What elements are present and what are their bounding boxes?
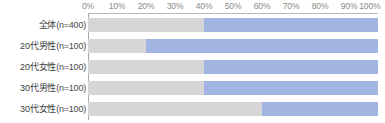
bar-segment-blue-3 — [204, 81, 378, 95]
category-name-4: 30代女性 — [20, 104, 56, 114]
category-label-row-4: 30代女性(n=100) — [2, 102, 86, 116]
x-axis-tick-50: 50% — [225, 1, 242, 11]
y-axis-category-labels: 全体(n=400) 20代男性(n=100) 20代女性(n=100) 30代男… — [0, 14, 86, 119]
x-axis-tick-80: 80% — [312, 1, 329, 11]
x-axis-tick-60: 60% — [254, 1, 271, 11]
x-axis-tick-0: 0% — [82, 1, 94, 11]
bar-segment-gray-4 — [88, 102, 262, 116]
category-label-row-1: 20代男性(n=100) — [2, 39, 86, 53]
bar-segment-blue-2 — [204, 60, 378, 74]
x-axis-tick-90: 90% — [341, 1, 358, 11]
bar-row-1 — [88, 39, 378, 53]
x-axis-tick-100: 100% — [359, 1, 380, 11]
category-name-3: 30代男性 — [20, 83, 56, 93]
bar-row-0 — [88, 18, 378, 32]
plot-area — [88, 14, 378, 119]
category-name-1: 20代男性 — [20, 41, 56, 51]
bar-segment-blue-1 — [146, 39, 378, 53]
category-count-2: (n=100) — [56, 62, 86, 72]
category-count-4: (n=100) — [56, 104, 86, 114]
category-count-1: (n=100) — [56, 41, 86, 51]
bar-segment-gray-3 — [88, 81, 204, 95]
bar-segment-blue-0 — [204, 18, 378, 32]
x-axis-tick-10: 10% — [109, 1, 126, 11]
category-name-0: 全体 — [39, 20, 57, 30]
bar-row-4 — [88, 102, 378, 116]
category-label-row-3: 30代男性(n=100) — [2, 81, 86, 95]
bar-row-3 — [88, 81, 378, 95]
stacked-bar-chart: 0% 10% 20% 30% 40% 50% 60% 70% 80% 90% 1… — [0, 0, 385, 123]
x-axis-tick-40: 40% — [196, 1, 213, 11]
category-label-row-0: 全体(n=400) — [2, 18, 86, 32]
bar-segment-gray-0 — [88, 18, 204, 32]
x-axis-tick-70: 70% — [283, 1, 300, 11]
bar-row-2 — [88, 60, 378, 74]
bar-segment-gray-1 — [88, 39, 146, 53]
category-count-0: (n=400) — [56, 20, 86, 30]
bar-segment-blue-4 — [262, 102, 378, 116]
x-axis-tick-30: 30% — [167, 1, 184, 11]
x-axis-tick-20: 20% — [138, 1, 155, 11]
category-name-2: 20代女性 — [20, 62, 56, 72]
bar-segment-gray-2 — [88, 60, 204, 74]
x-axis-tick-labels: 0% 10% 20% 30% 40% 50% 60% 70% 80% 90% 1… — [0, 0, 385, 14]
category-count-3: (n=100) — [56, 83, 86, 93]
category-label-row-2: 20代女性(n=100) — [2, 60, 86, 74]
